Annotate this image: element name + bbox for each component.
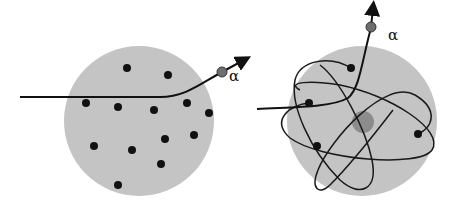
electron [347,64,355,72]
alpha-particle [217,67,227,77]
negative-charge [183,99,191,107]
atom-models-diagram: α α [0,0,456,211]
negative-charge [123,64,131,72]
positive-sphere [64,46,214,196]
alpha-particle [366,22,376,32]
negative-charge [114,181,122,189]
negative-charge [161,135,169,143]
negative-charge [157,160,165,168]
electron [313,142,321,150]
negative-charge [190,131,198,139]
negative-charge [82,99,90,107]
nuclear-model-panel: α [257,8,437,196]
alpha-label: α [229,67,239,85]
negative-charge [128,146,136,154]
negative-charge [114,103,122,111]
negative-charge [205,109,213,117]
negative-charge [90,142,98,150]
negative-charge [150,106,158,114]
negative-charge [164,71,172,79]
alpha-label: α [388,26,398,44]
plum-pudding-panel: α [20,46,244,196]
electron [414,130,422,138]
